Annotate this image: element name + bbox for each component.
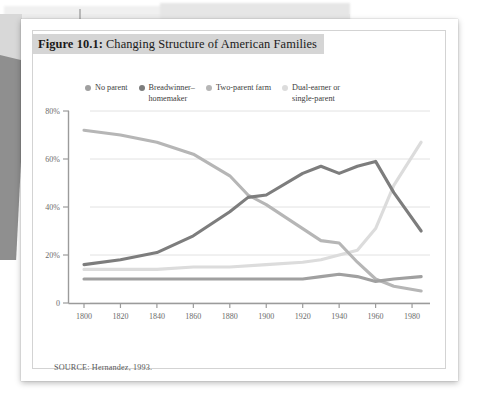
- legend-swatch-icon: [85, 85, 91, 91]
- figure-title-text: Changing Structure of American Families: [106, 37, 317, 52]
- chart-legend: No parent Breadwinner– homemaker Two-par…: [85, 83, 425, 104]
- legend-label: Breadwinner– homemaker: [149, 83, 195, 104]
- legend-label: Two-parent farm: [216, 83, 271, 94]
- figure-frame: [32, 30, 446, 369]
- source-note: SOURCE: Hernandez, 1993.: [54, 363, 152, 372]
- legend-swatch-icon: [206, 85, 212, 91]
- legend-item-dual-earner-single-parent[interactable]: Dual-earner or single-parent: [282, 83, 340, 104]
- figure-title: Figure 10.1: Changing Structure of Ameri…: [33, 34, 324, 54]
- legend-item-no-parent[interactable]: No parent: [85, 83, 128, 94]
- legend-label: No parent: [95, 83, 128, 94]
- figure-page: Figure 10.1: Changing Structure of Ameri…: [21, 19, 458, 381]
- legend-swatch-icon: [282, 85, 288, 91]
- legend-label: Dual-earner or single-parent: [292, 83, 340, 104]
- figure-number: Figure 10.1:: [38, 37, 103, 52]
- legend-item-two-parent-farm[interactable]: Two-parent farm: [206, 83, 271, 94]
- legend-item-breadwinner-homemaker[interactable]: Breadwinner– homemaker: [139, 83, 195, 104]
- legend-swatch-icon: [139, 85, 145, 91]
